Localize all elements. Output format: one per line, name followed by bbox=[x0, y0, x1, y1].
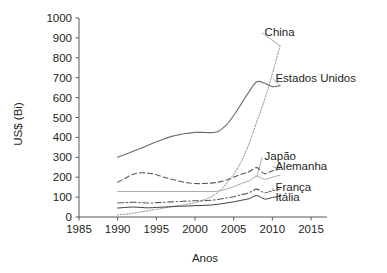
x-tick-label: 2000 bbox=[182, 223, 208, 235]
x-tick-label: 2010 bbox=[260, 223, 286, 235]
x-axis: 1985199019952000200520102015 bbox=[66, 217, 327, 235]
x-tick-label: 1985 bbox=[66, 223, 92, 235]
series-label-alemanha: Alemanha bbox=[275, 160, 327, 172]
series-line-alemanha bbox=[118, 168, 280, 184]
series-line-estados-unidos bbox=[118, 81, 280, 157]
series-label-china: China bbox=[265, 26, 296, 38]
y-tick-label: 400 bbox=[53, 131, 72, 143]
x-tick-label: 2005 bbox=[221, 223, 247, 235]
y-tick-label: 100 bbox=[53, 191, 72, 203]
y-tick-label: 200 bbox=[53, 171, 72, 183]
series-label-it-lia: Itália bbox=[275, 191, 300, 203]
x-tick-label: 2015 bbox=[298, 223, 324, 235]
y-axis-title: US$ (Bi) bbox=[12, 102, 24, 146]
y-tick-label: 600 bbox=[53, 92, 72, 104]
y-tick-label: 300 bbox=[53, 151, 72, 163]
series-label-estados-unidos: Estados Unidos bbox=[275, 72, 356, 84]
x-axis-title: Anos bbox=[192, 252, 218, 264]
series-lines bbox=[118, 46, 280, 215]
y-tick-label: 0 bbox=[66, 211, 72, 223]
y-tick-label: 700 bbox=[53, 72, 72, 84]
x-tick-label: 1990 bbox=[105, 223, 131, 235]
chart-canvas: 01002003004005006007008009001000 1985199… bbox=[0, 0, 387, 273]
x-tick-label: 1995 bbox=[144, 223, 170, 235]
y-tick-label: 900 bbox=[53, 32, 72, 44]
y-axis: 01002003004005006007008009001000 bbox=[46, 12, 79, 223]
y-tick-label: 500 bbox=[53, 112, 72, 124]
y-tick-label: 1000 bbox=[46, 12, 72, 24]
y-tick-label: 800 bbox=[53, 52, 72, 64]
line-chart: 01002003004005006007008009001000 1985199… bbox=[0, 0, 387, 273]
